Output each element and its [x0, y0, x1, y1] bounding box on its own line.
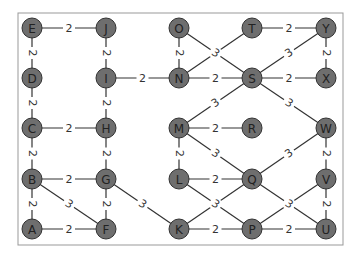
svg-text:2: 2: [212, 122, 219, 135]
svg-text:D: D: [27, 72, 36, 86]
svg-text:E: E: [28, 22, 36, 36]
svg-text:2: 2: [26, 150, 39, 157]
node-F: F: [96, 219, 116, 239]
edge-weight-label: 2: [100, 148, 113, 160]
svg-text:M: M: [174, 122, 184, 136]
edge-weight-label: 3: [280, 44, 297, 61]
node-L: L: [169, 169, 189, 189]
svg-text:2: 2: [286, 22, 293, 35]
node-Y: Y: [316, 18, 336, 38]
svg-text:2: 2: [320, 201, 333, 208]
edge-weight-label: 3: [207, 145, 224, 163]
node-J: J: [96, 18, 116, 38]
edge-weight-label: 2: [283, 22, 295, 35]
side-caption: [2, 185, 14, 245]
svg-text:2: 2: [26, 100, 39, 107]
node-H: H: [96, 118, 116, 138]
edge-weight-label: 3: [60, 195, 77, 212]
node-V: V: [316, 169, 336, 189]
svg-text:2: 2: [173, 150, 186, 157]
node-I: I: [96, 68, 116, 88]
node-U: U: [316, 219, 336, 239]
node-K: K: [169, 219, 189, 239]
svg-text:2: 2: [320, 50, 333, 57]
edge-weight-label: 2: [210, 223, 222, 236]
svg-text:S: S: [248, 72, 256, 86]
svg-text:I: I: [104, 72, 108, 86]
svg-text:C: C: [28, 122, 36, 136]
edge-weight-label: 3: [207, 44, 224, 62]
svg-text:2: 2: [212, 72, 219, 85]
node-Q: Q: [242, 169, 262, 189]
node-G: G: [96, 169, 116, 189]
node-M: M: [169, 118, 189, 138]
graph-canvas: 22222222222323223222323322332232322 EJOT…: [0, 0, 357, 256]
svg-text:V: V: [322, 173, 331, 187]
edge-weight-label: 2: [63, 223, 75, 236]
svg-text:2: 2: [320, 150, 333, 157]
edge-weight-label: 2: [26, 198, 39, 210]
edge-weight-label: 2: [100, 97, 113, 109]
edge-weight-label: 2: [26, 148, 39, 160]
svg-text:2: 2: [173, 50, 186, 57]
svg-text:F: F: [103, 223, 110, 237]
edge-weight-label: 2: [283, 72, 295, 85]
node-S: S: [242, 68, 262, 88]
svg-text:2: 2: [26, 201, 39, 208]
edge-weight-label: 2: [173, 47, 186, 59]
svg-text:2: 2: [66, 22, 73, 35]
svg-text:2: 2: [100, 100, 113, 107]
svg-text:Q: Q: [247, 173, 256, 187]
node-N: N: [169, 68, 189, 88]
edge-weight-label: 2: [210, 72, 222, 85]
node-B: B: [22, 169, 42, 189]
edge-weight-label: 2: [320, 198, 333, 210]
svg-text:R: R: [248, 122, 256, 136]
edge-weight-label: 2: [63, 173, 75, 186]
svg-text:P: P: [248, 223, 255, 237]
edge-weight-label: 2: [283, 223, 295, 236]
edge-weight-label: 3: [280, 195, 297, 212]
svg-text:K: K: [175, 223, 184, 237]
svg-text:H: H: [101, 122, 110, 136]
svg-text:2: 2: [100, 201, 113, 208]
svg-text:2: 2: [212, 223, 219, 236]
node-P: P: [242, 219, 262, 239]
edge-weight-label: 3: [207, 94, 224, 112]
edge-weight-label: 2: [210, 173, 222, 186]
svg-text:2: 2: [286, 223, 293, 236]
edge-weight-label: 2: [173, 148, 186, 160]
svg-text:J: J: [103, 22, 108, 36]
svg-text:W: W: [320, 122, 332, 136]
node-O: O: [169, 18, 189, 38]
svg-text:A: A: [28, 223, 37, 237]
edge-weight-label: 2: [210, 122, 222, 135]
svg-text:2: 2: [139, 72, 146, 85]
node-E: E: [22, 18, 42, 38]
edge-weight-label: 2: [63, 122, 75, 135]
svg-text:2: 2: [66, 173, 73, 186]
svg-text:Y: Y: [321, 22, 330, 36]
edge-weight-label: 3: [280, 94, 297, 111]
svg-text:2: 2: [26, 50, 39, 57]
svg-text:L: L: [176, 173, 183, 187]
edge-weight-label: 2: [320, 148, 333, 160]
svg-text:2: 2: [100, 150, 113, 157]
svg-text:2: 2: [286, 72, 293, 85]
node-X: X: [316, 68, 336, 88]
node-R: R: [242, 118, 262, 138]
node-A: A: [22, 219, 42, 239]
edge-weight-label: 2: [26, 97, 39, 109]
node-C: C: [22, 118, 42, 138]
edge-weight-label: 2: [137, 72, 149, 85]
edge-weight-label: 2: [26, 47, 39, 59]
svg-text:B: B: [28, 173, 36, 187]
edge-weight-label: 3: [280, 145, 297, 163]
svg-text:G: G: [101, 173, 110, 187]
edge-weight-label: 2: [63, 22, 75, 35]
edge-weight-label: 2: [100, 198, 113, 210]
svg-text:N: N: [175, 72, 184, 86]
svg-text:2: 2: [66, 223, 73, 236]
svg-text:2: 2: [100, 50, 113, 57]
svg-text:U: U: [322, 223, 331, 237]
